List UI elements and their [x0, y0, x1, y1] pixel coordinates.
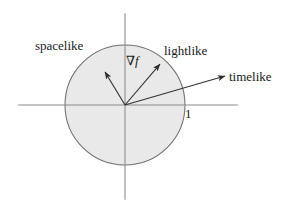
label-spacelike: spacelike [35, 39, 83, 52]
label-lightlike: lightlike [164, 44, 207, 57]
label-unit-tick: 1 [185, 107, 192, 120]
causal-character-diagram [0, 0, 294, 204]
figure-root: spacelike lightlike timelike ∇f 1 [0, 0, 294, 204]
label-gradient-f: ∇f [126, 54, 139, 67]
nabla-icon: ∇ [126, 53, 135, 68]
label-timelike: timelike [229, 70, 272, 83]
label-gradient-function: f [135, 53, 139, 68]
